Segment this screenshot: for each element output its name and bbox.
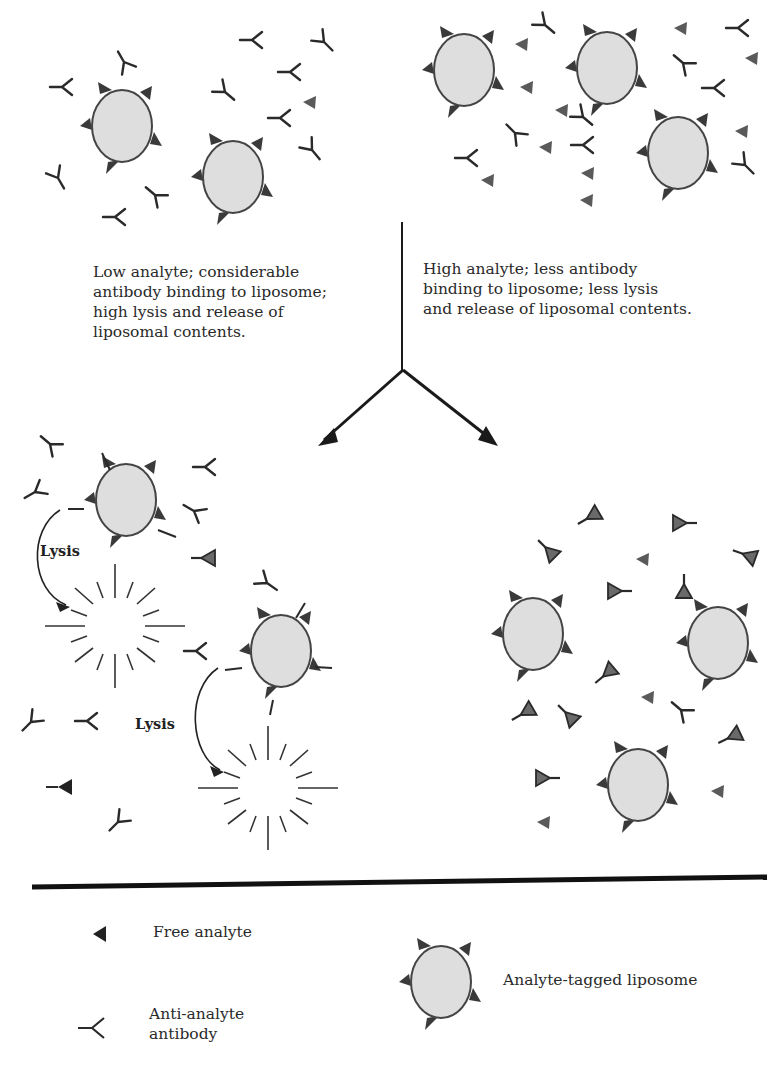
- anti-analyte-antibody-icon: [455, 150, 477, 166]
- anti-analyte-antibody-icon: [111, 48, 136, 75]
- free-analyte-icon: [636, 553, 649, 566]
- high-analyte-scene: [422, 12, 759, 207]
- free-analyte-icon: [481, 174, 494, 187]
- anti-analyte-antibody-icon: [240, 32, 262, 48]
- lysis-scene: [17, 430, 338, 850]
- analyte-tagged-liposome-icon: [399, 938, 481, 1030]
- antibody-bound-analyte-icon: [676, 574, 692, 598]
- analyte-tagged-liposome-icon: [565, 24, 647, 116]
- legend-antibody-label: Anti-analyte antibody: [149, 1004, 244, 1044]
- anti-analyte-antibody-icon: [278, 64, 300, 80]
- branch-arrow-icon: [318, 222, 498, 446]
- anti-analyte-antibody-icon: [212, 79, 239, 105]
- analyte-tagged-liposome-icon: [80, 82, 162, 174]
- antibody-bound-analyte-icon: [552, 699, 580, 727]
- anti-analyte-antibody-icon: [311, 29, 338, 56]
- free-analyte-icon: [735, 125, 748, 138]
- anti-analyte-antibody-icon: [726, 20, 748, 36]
- anti-analyte-antibody-icon: [50, 79, 72, 95]
- free-analyte-icon: [520, 81, 533, 94]
- high-analyte-caption: High analyte; less antibody binding to l…: [423, 259, 692, 319]
- analyte-tagged-liposome-icon: [239, 607, 321, 699]
- lysis-label: Lysis: [135, 715, 175, 732]
- anti-analyte-antibody-icon: [78, 1018, 104, 1038]
- antibody-bound-analyte-icon: [730, 543, 758, 566]
- analyte-tagged-liposome-icon: [596, 741, 678, 833]
- free-analyte-icon: [745, 52, 758, 65]
- analyte-tagged-liposome-icon: [676, 599, 758, 691]
- legend-liposome-label: Analyte-tagged liposome: [503, 970, 697, 990]
- free-analyte-icon: [555, 104, 568, 117]
- free-analyte-icon: [711, 785, 724, 798]
- anti-analyte-antibody-icon: [184, 643, 206, 659]
- lysis-burst-icon: [45, 564, 185, 688]
- legend-free-analyte-label: Free analyte: [153, 922, 252, 942]
- anti-analyte-antibody-icon: [299, 137, 325, 164]
- antibody-bound-analyte-icon: [191, 550, 215, 566]
- antibody-bound-analyte-icon: [715, 726, 744, 751]
- low-analyte-scene: [46, 29, 338, 225]
- anti-analyte-antibody-icon: [36, 430, 63, 456]
- anti-analyte-antibody-icon: [103, 209, 125, 225]
- anti-analyte-antibody-icon: [571, 137, 593, 153]
- anti-analyte-antibody-icon: [17, 709, 44, 736]
- anti-analyte-antibody-icon: [21, 480, 48, 505]
- free-analyte-icon: [581, 167, 594, 180]
- less-lysis-scene: [491, 505, 758, 833]
- free-analyte-icon: [537, 816, 550, 829]
- free-analyte-icon: [674, 22, 687, 35]
- anti-analyte-antibody-icon: [46, 165, 71, 192]
- lysis-arrow: [195, 668, 220, 770]
- free-analyte-icon: [93, 926, 106, 942]
- antibody-bound-analyte-icon: [532, 534, 560, 562]
- anti-analyte-antibody-icon: [702, 80, 724, 96]
- analyte-tagged-liposome-icon: [422, 26, 504, 118]
- anti-analyte-antibody-icon: [532, 12, 559, 38]
- anti-analyte-antibody-icon: [254, 571, 281, 597]
- lysis-burst-icon: [198, 726, 338, 850]
- anti-analyte-antibody-icon: [141, 181, 168, 207]
- anti-analyte-antibody-icon: [667, 696, 694, 722]
- antibody-bound-analyte-icon: [574, 505, 603, 531]
- anti-analyte-antibody-icon: [180, 498, 207, 523]
- antibody-bound-analyte-icon: [608, 583, 632, 599]
- anti-analyte-antibody-icon: [75, 713, 97, 729]
- free-analyte-icon: [303, 96, 316, 109]
- low-analyte-caption: Low analyte; considerable antibody bindi…: [93, 262, 327, 342]
- free-analyte-icon: [580, 194, 593, 207]
- anti-analyte-antibody-icon: [669, 49, 696, 75]
- antibody-bound-analyte-icon: [536, 770, 560, 786]
- antibody-bound-analyte-icon: [673, 515, 697, 531]
- liposome-immunoassay-diagram: [0, 0, 782, 1070]
- free-analyte-icon: [539, 141, 552, 154]
- antibody-bound-analyte-icon: [590, 661, 619, 689]
- anti-analyte-antibody-icon: [501, 119, 528, 146]
- free-analyte-icon: [515, 38, 528, 51]
- anti-analyte-antibody-icon: [732, 152, 759, 179]
- antibody-bound-analyte-icon: [508, 701, 537, 727]
- anti-analyte-antibody-icon: [268, 110, 290, 126]
- anti-analyte-antibody-icon: [193, 459, 215, 475]
- lysis-label: Lysis: [40, 542, 80, 559]
- legend-divider: [32, 877, 767, 887]
- analyte-tagged-liposome-icon: [191, 133, 273, 225]
- free-analyte-icon: [46, 779, 72, 795]
- analyte-tagged-liposome-icon: [491, 590, 573, 682]
- analyte-tagged-liposome-icon: [84, 456, 166, 548]
- analyte-tagged-liposome-icon: [636, 109, 718, 201]
- anti-analyte-antibody-icon: [104, 809, 131, 836]
- free-analyte-icon: [641, 691, 654, 704]
